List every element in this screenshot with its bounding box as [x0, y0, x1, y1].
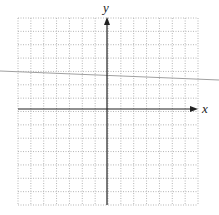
- coordinate-plane: x y: [0, 0, 219, 215]
- plotted-line: [0, 71, 219, 80]
- y-axis-arrow-icon: [104, 17, 110, 25]
- y-axis-label: y: [101, 0, 109, 15]
- x-axis-label: x: [201, 101, 208, 116]
- grid: [18, 18, 198, 205]
